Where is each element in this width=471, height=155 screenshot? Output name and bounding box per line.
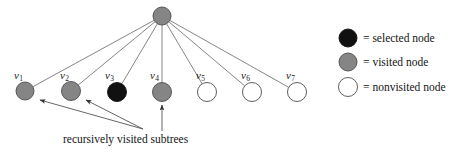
node-label-index: 2 <box>65 74 69 83</box>
annotation-arrows <box>40 100 162 131</box>
tree-node-v5 <box>198 83 217 102</box>
tree-node-v7 <box>288 83 307 102</box>
legend-swatch-selected <box>339 29 357 47</box>
node-label-index: 5 <box>201 74 205 83</box>
tree-edge-6 <box>169 22 245 86</box>
node-label-index: 6 <box>246 74 250 83</box>
legend-label: nonvisited node <box>372 81 445 93</box>
annotation-caption: recursively visited subtrees <box>63 134 188 146</box>
node-label-index: 3 <box>110 74 114 83</box>
tree-node-v2 <box>62 82 81 101</box>
node-label-index: 1 <box>19 74 23 83</box>
legend-entry-nonvisited: = nonvisited node <box>363 82 446 94</box>
legend-swatch-nonvisited <box>339 78 358 97</box>
legend-label: selected node <box>372 32 434 44</box>
legend-entry-visited: = visited node <box>363 57 428 69</box>
legend-equals-sign: = <box>363 81 370 93</box>
tree-node-v3 <box>108 83 127 102</box>
tree-node-v1 <box>16 82 34 100</box>
node-label-v7: v7 <box>286 70 295 81</box>
node-label-v6: v6 <box>241 70 250 81</box>
legend-equals-sign: = <box>363 56 370 68</box>
legend-swatch-visited <box>339 53 357 71</box>
tree-edge-2 <box>78 22 155 85</box>
tree-edges <box>33 20 289 87</box>
node-label-v4: v4 <box>150 70 159 81</box>
node-label-index: 4 <box>155 74 159 83</box>
node-label-v3: v3 <box>105 70 114 81</box>
legend-label: visited node <box>372 56 428 68</box>
arrow-to-v2 <box>86 100 143 129</box>
tree-edge-1 <box>33 20 154 86</box>
root-node <box>153 7 171 25</box>
node-label-index: 7 <box>291 74 295 83</box>
tree-nodes <box>16 7 307 102</box>
node-label-v2: v2 <box>60 70 69 81</box>
recursion-tree-figure: v1v2v3v4v5v6v7 = selected node= visited … <box>0 0 471 155</box>
tree-node-v4 <box>153 83 172 102</box>
tree-edge-7 <box>170 20 289 87</box>
arrow-to-v1 <box>40 100 143 129</box>
node-label-v1: v1 <box>14 70 23 81</box>
legend-equals-sign: = <box>363 32 370 44</box>
node-label-v5: v5 <box>196 70 205 81</box>
legend-swatches <box>339 29 358 97</box>
legend-entry-selected: = selected node <box>363 33 435 45</box>
tree-node-v6 <box>243 83 262 102</box>
diagram-canvas <box>0 0 471 155</box>
